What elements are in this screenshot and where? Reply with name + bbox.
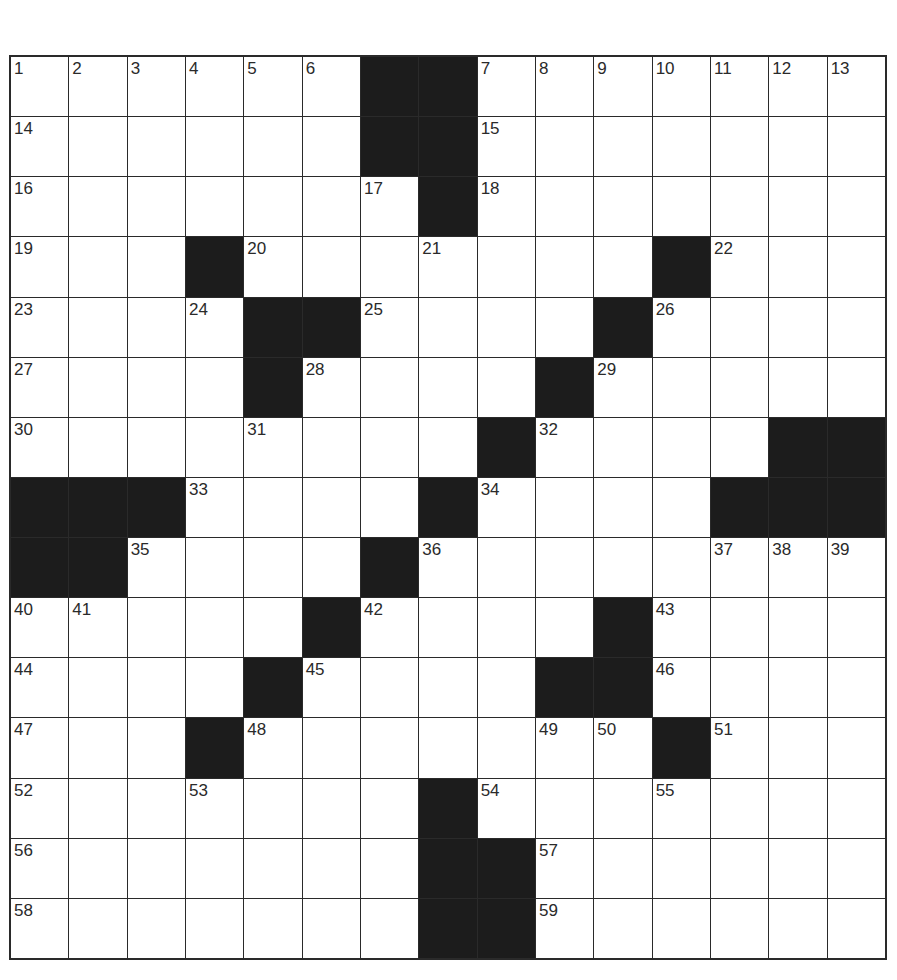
grid-cell[interactable]: 9 <box>594 57 651 116</box>
grid-cell[interactable]: 51 <box>711 718 768 777</box>
grid-cell[interactable] <box>303 718 360 777</box>
grid-cell[interactable]: 58 <box>11 899 68 958</box>
grid-cell[interactable] <box>594 177 651 236</box>
grid-cell[interactable] <box>711 899 768 958</box>
grid-cell[interactable]: 49 <box>536 718 593 777</box>
grid-cell[interactable] <box>594 538 651 597</box>
grid-cell[interactable] <box>361 358 418 417</box>
grid-cell[interactable] <box>303 177 360 236</box>
grid-cell[interactable]: 7 <box>478 57 535 116</box>
grid-cell[interactable] <box>769 358 826 417</box>
grid-cell[interactable] <box>303 899 360 958</box>
grid-cell[interactable]: 34 <box>478 478 535 537</box>
grid-cell[interactable] <box>186 899 243 958</box>
grid-cell[interactable] <box>419 718 476 777</box>
grid-cell[interactable] <box>244 117 301 176</box>
grid-cell[interactable]: 22 <box>711 237 768 296</box>
grid-cell[interactable] <box>69 358 126 417</box>
grid-cell[interactable] <box>303 478 360 537</box>
grid-cell[interactable] <box>244 478 301 537</box>
grid-cell[interactable] <box>69 718 126 777</box>
grid-cell[interactable] <box>828 658 885 717</box>
grid-cell[interactable]: 17 <box>361 177 418 236</box>
grid-cell[interactable] <box>711 779 768 838</box>
grid-cell[interactable] <box>419 358 476 417</box>
grid-cell[interactable] <box>653 117 710 176</box>
grid-cell[interactable] <box>594 779 651 838</box>
grid-cell[interactable] <box>128 237 185 296</box>
grid-cell[interactable]: 39 <box>828 538 885 597</box>
grid-cell[interactable]: 23 <box>11 298 68 357</box>
grid-cell[interactable] <box>828 358 885 417</box>
grid-cell[interactable] <box>361 418 418 477</box>
grid-cell[interactable] <box>303 779 360 838</box>
grid-cell[interactable] <box>594 418 651 477</box>
grid-cell[interactable] <box>478 237 535 296</box>
grid-cell[interactable] <box>361 237 418 296</box>
grid-cell[interactable] <box>536 237 593 296</box>
grid-cell[interactable] <box>186 177 243 236</box>
grid-cell[interactable] <box>69 237 126 296</box>
grid-cell[interactable]: 24 <box>186 298 243 357</box>
grid-cell[interactable] <box>594 899 651 958</box>
grid-cell[interactable]: 29 <box>594 358 651 417</box>
grid-cell[interactable]: 50 <box>594 718 651 777</box>
grid-cell[interactable] <box>653 899 710 958</box>
grid-cell[interactable] <box>244 779 301 838</box>
grid-cell[interactable] <box>594 839 651 898</box>
grid-cell[interactable]: 4 <box>186 57 243 116</box>
grid-cell[interactable] <box>653 358 710 417</box>
grid-cell[interactable]: 6 <box>303 57 360 116</box>
grid-cell[interactable] <box>711 358 768 417</box>
grid-cell[interactable] <box>769 177 826 236</box>
grid-cell[interactable]: 44 <box>11 658 68 717</box>
grid-cell[interactable]: 48 <box>244 718 301 777</box>
grid-cell[interactable] <box>303 237 360 296</box>
grid-cell[interactable]: 14 <box>11 117 68 176</box>
grid-cell[interactable]: 43 <box>653 598 710 657</box>
grid-cell[interactable] <box>69 117 126 176</box>
grid-cell[interactable]: 5 <box>244 57 301 116</box>
grid-cell[interactable] <box>769 899 826 958</box>
grid-cell[interactable] <box>594 478 651 537</box>
grid-cell[interactable] <box>828 899 885 958</box>
grid-cell[interactable] <box>536 117 593 176</box>
grid-cell[interactable] <box>653 478 710 537</box>
grid-cell[interactable]: 33 <box>186 478 243 537</box>
grid-cell[interactable] <box>69 779 126 838</box>
grid-cell[interactable] <box>244 598 301 657</box>
grid-cell[interactable] <box>186 538 243 597</box>
grid-cell[interactable] <box>69 177 126 236</box>
grid-cell[interactable] <box>186 358 243 417</box>
grid-cell[interactable] <box>361 718 418 777</box>
grid-cell[interactable] <box>186 418 243 477</box>
grid-cell[interactable]: 25 <box>361 298 418 357</box>
grid-cell[interactable] <box>769 117 826 176</box>
grid-cell[interactable] <box>303 839 360 898</box>
grid-cell[interactable] <box>128 779 185 838</box>
grid-cell[interactable] <box>769 779 826 838</box>
grid-cell[interactable] <box>478 658 535 717</box>
grid-cell[interactable] <box>536 779 593 838</box>
grid-cell[interactable] <box>478 358 535 417</box>
grid-cell[interactable]: 10 <box>653 57 710 116</box>
grid-cell[interactable]: 35 <box>128 538 185 597</box>
grid-cell[interactable]: 3 <box>128 57 185 116</box>
grid-cell[interactable] <box>186 658 243 717</box>
grid-cell[interactable]: 41 <box>69 598 126 657</box>
grid-cell[interactable]: 47 <box>11 718 68 777</box>
grid-cell[interactable] <box>361 839 418 898</box>
grid-cell[interactable] <box>536 598 593 657</box>
grid-cell[interactable] <box>128 177 185 236</box>
grid-cell[interactable] <box>536 478 593 537</box>
grid-cell[interactable] <box>711 658 768 717</box>
grid-cell[interactable]: 46 <box>653 658 710 717</box>
grid-cell[interactable]: 1 <box>11 57 68 116</box>
grid-cell[interactable] <box>244 538 301 597</box>
grid-cell[interactable] <box>478 298 535 357</box>
grid-cell[interactable] <box>128 358 185 417</box>
grid-cell[interactable]: 42 <box>361 598 418 657</box>
grid-cell[interactable]: 52 <box>11 779 68 838</box>
grid-cell[interactable] <box>128 899 185 958</box>
grid-cell[interactable] <box>303 538 360 597</box>
